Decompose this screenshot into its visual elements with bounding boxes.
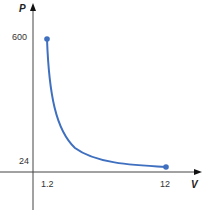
point-start — [44, 36, 50, 42]
point-end — [163, 164, 169, 170]
x-tick-1-2: 1.2 — [41, 179, 54, 189]
y-axis-label: P — [19, 3, 26, 14]
y-tick-24: 24 — [19, 156, 29, 166]
pv-chart: P V 600 24 1.2 12 — [0, 0, 204, 213]
y-axis-arrow-icon — [30, 3, 36, 11]
y-tick-600: 600 — [12, 32, 27, 42]
pv-curve — [47, 39, 166, 167]
x-axis-label: V — [191, 179, 199, 190]
x-tick-12: 12 — [160, 179, 170, 189]
x-axis-arrow-icon — [194, 169, 202, 175]
